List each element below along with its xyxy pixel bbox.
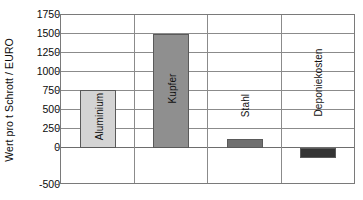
y-tick-label-0: 0	[20, 141, 60, 153]
bar-aluminium[interactable]: Aluminium	[80, 90, 116, 148]
y-tick-label-250: 250	[20, 122, 60, 134]
bar-label-aluminium: Aluminium	[94, 71, 105, 163]
bar-label-stahl: Stahl	[240, 88, 251, 124]
y-tick-mark-neg500	[56, 184, 60, 185]
y-axis-title: Wert pro t Schrott / EURO	[0, 0, 18, 200]
bar-deponiekosten[interactable]	[300, 148, 336, 158]
category-divider-1	[134, 15, 135, 183]
y-tick-label-500: 500	[20, 103, 60, 115]
y-tick-label-neg500: -500	[20, 178, 60, 190]
category-divider-2	[207, 15, 208, 183]
y-tick-label-1000: 1000	[20, 65, 60, 77]
plot-area: Aluminium Kupfer Stahl Deponiekosten	[60, 14, 355, 184]
category-divider-3	[281, 15, 282, 183]
bar-stahl[interactable]	[227, 139, 263, 148]
y-tick-label-1750: 1750	[20, 8, 60, 20]
bar-kupfer[interactable]: Kupfer	[153, 34, 189, 148]
y-tick-label-750: 750	[20, 84, 60, 96]
bar-label-kupfer: Kupfer	[167, 62, 178, 116]
y-tick-label-1500: 1500	[20, 27, 60, 39]
bar-chart: Wert pro t Schrott / EURO 1750 1500 1250…	[0, 0, 363, 200]
bar-label-deponiekosten: Deponiekosten	[313, 44, 324, 122]
y-tick-label-1250: 1250	[20, 46, 60, 58]
